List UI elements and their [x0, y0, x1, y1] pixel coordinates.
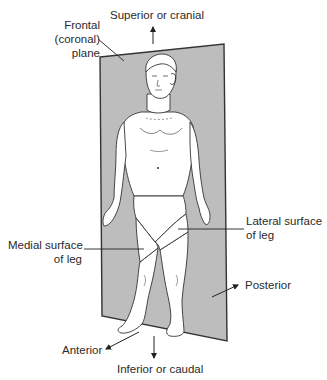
lateral-line2: of leg	[246, 228, 322, 242]
label-inferior: Inferior or caudal	[117, 362, 203, 376]
anatomy-diagram	[0, 0, 327, 380]
anterior-arrow-icon	[106, 332, 139, 349]
label-superior: Superior or cranial	[110, 8, 204, 22]
frontal-line1: Frontal	[52, 18, 100, 32]
medial-line1: Medial surface	[8, 238, 82, 252]
label-posterior: Posterior	[245, 278, 291, 292]
label-frontal-plane: Frontal (coronal) plane	[52, 18, 100, 60]
frontal-line3: plane	[52, 46, 100, 60]
label-anterior: Anterior	[62, 343, 102, 357]
torso	[122, 112, 194, 196]
lateral-line1: Lateral surface	[246, 214, 322, 228]
medial-line2: of leg	[8, 252, 82, 266]
label-medial-surface: Medial surface of leg	[8, 238, 82, 266]
label-lateral-surface: Lateral surface of leg	[246, 214, 322, 242]
frontal-line2: (coronal)	[52, 32, 100, 46]
